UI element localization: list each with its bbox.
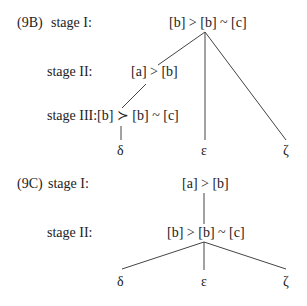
edge-9b-s2-s3	[122, 84, 146, 108]
stage-label: stage III:	[47, 108, 97, 124]
tree-node: [b] ≻ [b] ~ [c]	[97, 108, 179, 124]
leaf-delta: δ	[117, 274, 124, 290]
leaf-epsilon: ε	[201, 274, 207, 290]
example-label-9c: (9C)	[17, 176, 43, 192]
stage-label: stage II:	[47, 64, 92, 80]
leaf-zeta: ζ	[283, 143, 289, 159]
tree-node: [a] > [b]	[182, 176, 229, 192]
edge-9b-s1-zeta	[205, 32, 286, 140]
example-label-9b: (9B)	[17, 15, 43, 31]
stage-label: stage I:	[51, 15, 92, 31]
tree-edges	[0, 0, 307, 306]
tree-node: [b] > [b] ~ [c]	[167, 225, 245, 241]
leaf-delta: δ	[117, 143, 124, 159]
stage-label: stage II:	[47, 225, 92, 241]
edge-9c-s2-delta	[122, 242, 204, 269]
leaf-epsilon: ε	[201, 143, 207, 159]
leaf-zeta: ζ	[283, 274, 289, 290]
stage-label: stage I:	[48, 176, 89, 192]
edge-9c-s2-zeta	[204, 242, 286, 269]
edge-9b-s1-s2	[158, 32, 205, 65]
tree-node: [a] > [b]	[131, 64, 178, 80]
tree-node: [b] > [b] ~ [c]	[169, 15, 247, 31]
